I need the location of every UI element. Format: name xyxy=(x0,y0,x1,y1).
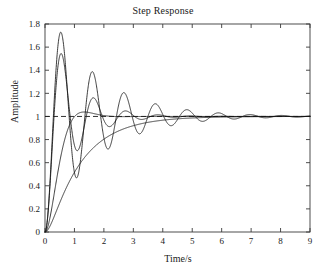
y-tick-label: 0.2 xyxy=(29,204,40,214)
y-tick-label: 0.6 xyxy=(29,158,41,168)
x-tick-label: 0 xyxy=(43,236,48,246)
y-tick-label: 1 xyxy=(36,112,41,122)
x-tick-label: 2 xyxy=(102,236,107,246)
curve-near-critically-damped xyxy=(45,112,310,232)
axis-tick-labels: 012345678900.20.40.60.811.21.41.61.8 xyxy=(29,19,313,246)
axis-ticks xyxy=(45,24,310,232)
y-tick-label: 0.8 xyxy=(29,135,41,145)
x-tick-label: 8 xyxy=(278,236,283,246)
y-tick-label: 1.4 xyxy=(29,65,41,75)
x-tick-label: 5 xyxy=(190,236,195,246)
x-tick-label: 3 xyxy=(131,236,136,246)
x-tick-label: 6 xyxy=(219,236,224,246)
axes xyxy=(45,24,310,232)
curve-moderately-damped xyxy=(45,54,310,232)
y-tick-label: 0 xyxy=(36,227,41,237)
x-tick-label: 4 xyxy=(161,236,166,246)
plot-canvas: 012345678900.20.40.60.811.21.41.61.8 xyxy=(0,0,326,278)
x-tick-label: 7 xyxy=(249,236,254,246)
curve-lightly-damped xyxy=(45,32,310,232)
x-tick-label: 1 xyxy=(72,236,77,246)
y-tick-label: 0.4 xyxy=(29,181,41,191)
y-tick-label: 1.8 xyxy=(29,19,41,29)
response-curves xyxy=(45,32,310,232)
x-axis-label: Time/s xyxy=(45,253,311,264)
x-tick-label: 9 xyxy=(308,236,313,246)
curve-overdamped xyxy=(45,116,310,232)
y-tick-label: 1.6 xyxy=(29,42,41,52)
y-tick-label: 1.2 xyxy=(29,89,40,99)
step-response-figure: Step Response Amplitude 012345678900.20.… xyxy=(0,0,326,278)
